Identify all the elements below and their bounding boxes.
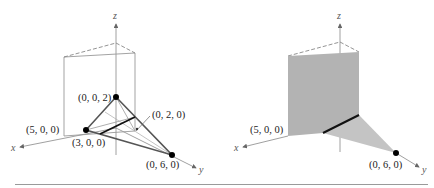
point-label-3-0-0: (3, 0, 0) (72, 138, 105, 149)
x-axis-label: x (11, 143, 15, 153)
y-axis-label: y (199, 165, 203, 175)
right-diagram: z x y (5, 0, 0) (0, 6, 0) (217, 0, 434, 188)
z-axis-label: z (337, 11, 341, 21)
y-axis-label: y (422, 165, 426, 175)
point-label-0-0-2: (0, 0, 2) (78, 93, 111, 104)
bottom-divider (15, 184, 428, 185)
point-label-5-0-0: (5, 0, 0) (250, 125, 283, 136)
point-label-0-6-0: (0, 6, 0) (146, 160, 179, 171)
left-diagram: z x y (0, 0, 2) (5, 0, 0) (3, 0, 0) (0, … (0, 0, 217, 188)
x-axis-label: x (234, 143, 238, 153)
point-label-5-0-0: (5, 0, 0) (26, 125, 59, 136)
z-axis-label: z (113, 11, 117, 21)
point-label-0-2-0: (0, 2, 0) (152, 110, 185, 121)
point-label-0-6-0: (0, 6, 0) (369, 160, 402, 171)
